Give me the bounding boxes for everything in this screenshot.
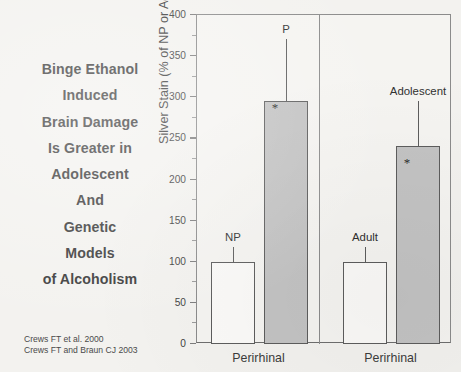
x-axis-label-panel-left: Perirhinal bbox=[232, 351, 284, 365]
error-bar-p bbox=[286, 39, 287, 101]
bar-adult bbox=[343, 262, 387, 344]
bar-np bbox=[211, 262, 255, 344]
y-tick-label: 250 bbox=[152, 132, 186, 143]
y-tick-label: 100 bbox=[152, 255, 186, 266]
significance-star-p: * bbox=[272, 101, 279, 114]
y-tick-label: 350 bbox=[152, 50, 186, 61]
y-tick-mark bbox=[190, 343, 196, 344]
y-tick-label: 300 bbox=[152, 91, 186, 102]
bar-label-adolescent: Adolescent bbox=[390, 85, 446, 97]
bar-adolescent bbox=[396, 146, 440, 344]
bar-label-np: NP bbox=[225, 231, 241, 243]
bar-label-p: P bbox=[282, 23, 290, 35]
y-axis-tick-labels: 050100150200250300350400 bbox=[148, 0, 186, 372]
plot-area: NPP*AdultAdolescent* bbox=[196, 14, 451, 343]
error-bar-adolescent bbox=[418, 101, 419, 146]
y-tick-label: 50 bbox=[152, 296, 186, 307]
y-tick-label: 200 bbox=[152, 173, 186, 184]
bar-p bbox=[264, 101, 308, 344]
panel-divider bbox=[319, 15, 320, 344]
bar-label-adult: Adult bbox=[352, 231, 378, 243]
error-bar-adult bbox=[365, 247, 366, 262]
y-tick-label: 0 bbox=[152, 338, 186, 349]
figure-canvas: Binge Ethanol Induced Brain Damage Is Gr… bbox=[0, 0, 461, 372]
y-tick-label: 150 bbox=[152, 214, 186, 225]
error-bar-np bbox=[233, 247, 234, 262]
significance-star-adolescent: * bbox=[404, 156, 411, 169]
y-tick-label: 400 bbox=[152, 9, 186, 20]
x-axis-label-panel-right: Perirhinal bbox=[364, 351, 416, 365]
